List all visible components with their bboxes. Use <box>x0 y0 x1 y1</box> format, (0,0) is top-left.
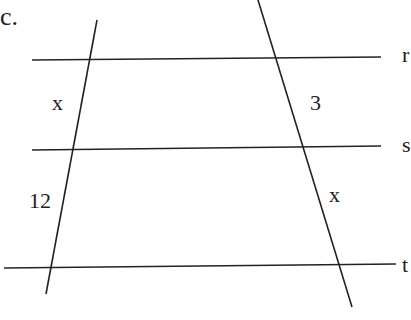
left-transversal <box>46 20 97 294</box>
segment-right-upper: 3 <box>310 92 321 114</box>
segment-left-lower: 12 <box>29 190 51 212</box>
line-t <box>4 264 396 268</box>
line-label-t: t <box>402 254 408 276</box>
line-label-s: s <box>402 134 411 156</box>
line-s <box>32 146 381 150</box>
segment-right-lower: x <box>329 184 340 206</box>
line-label-r: r <box>402 44 409 66</box>
segment-left-upper: x <box>52 92 63 114</box>
line-r <box>32 57 381 60</box>
right-transversal <box>258 0 352 307</box>
problem-label: c. <box>0 4 18 30</box>
